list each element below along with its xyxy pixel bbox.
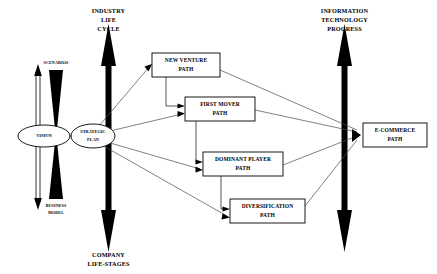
first-mover-path-label-line2: PATH (213, 110, 228, 116)
e-commerce-path-box[interactable]: E-COMMERCE PATH (363, 123, 427, 147)
new-venture-path-label-line1: NEW VENTURE (165, 57, 208, 63)
information-technology-progress-axis (337, 24, 352, 252)
it-progress-label-line1: INFORMATION (321, 7, 369, 14)
industry-life-cycle-label-line3: CYCLE (97, 25, 119, 32)
new-venture-path-label-line2: PATH (179, 66, 194, 72)
strategy-diagram: SCENARIOS BUSINESS MODEL INDUSTRY LIFE C… (0, 0, 437, 274)
first-mover-path-label-line1: FIRST MOVER (200, 101, 241, 107)
it-progress-label-line2: TECHNOLOGY (321, 16, 368, 23)
dominant-player-path-label-line1: DOMINANT PLAYER (215, 156, 272, 162)
diversification-path-label-line2: PATH (260, 212, 275, 218)
company-life-stages-label-line2: LIFE-STAGES (87, 260, 130, 267)
it-progress-label-line3: PROGRESS (327, 25, 362, 32)
company-life-stages-label-line1: COMPANY (92, 251, 125, 258)
diagram-canvas: SCENARIOS BUSINESS MODEL INDUSTRY LIFE C… (0, 0, 437, 274)
connection-group-e-commerce-convergence (220, 70, 361, 206)
e-commerce-path-label-line1: E-COMMERCE (375, 127, 416, 133)
first-mover-path-box[interactable]: FIRST MOVER PATH (185, 97, 255, 121)
dominant-player-path-label-line2: PATH (236, 165, 251, 171)
connection-group-strategic-plan-fan (93, 64, 230, 220)
new-venture-path-box[interactable]: NEW VENTURE PATH (152, 53, 220, 77)
strategic-plan-label-line2: PLAN (87, 137, 100, 142)
industry-life-cycle-label-line2: LIFE (101, 16, 116, 23)
diversification-path-box[interactable]: DIVERSIFICATION PATH (230, 199, 305, 223)
strategic-plan-node[interactable]: STRATEGIC PLAN (71, 124, 115, 148)
scenarios-label: SCENARIOS (44, 60, 69, 65)
industry-life-cycle-label-line1: INDUSTRY (92, 7, 126, 14)
strategic-plan-label-line1: STRATEGIC (80, 129, 105, 134)
dominant-player-path-box[interactable]: DOMINANT PLAYER PATH (203, 152, 283, 176)
e-commerce-path-label-line2: PATH (388, 136, 403, 142)
vision-label: VISION (36, 133, 52, 138)
vision-node[interactable]: VISION (18, 125, 70, 147)
business-model-label-line2: MODEL (48, 210, 64, 215)
diversification-path-label-line1: DIVERSIFICATION (242, 203, 294, 209)
business-model-label-line1: BUSINESS (46, 203, 67, 208)
